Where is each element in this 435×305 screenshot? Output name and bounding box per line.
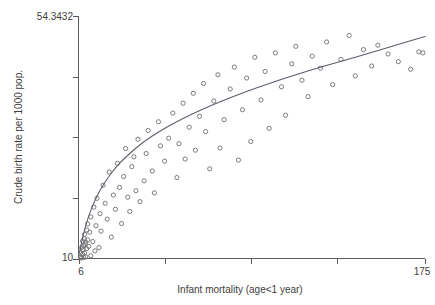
x-axis-title: Infant mortality (age<1 year) xyxy=(177,284,302,295)
x-axis-min-tick-label: 6 xyxy=(78,266,84,277)
x-axis-max-tick-label: 175 xyxy=(414,266,431,277)
y-axis-min-tick-label: 10 xyxy=(62,252,74,263)
y-axis-max-tick-label: 54.3432 xyxy=(37,11,74,22)
y-axis-title: Crude birth rate per 1000 pop. xyxy=(13,70,24,204)
scatter-plot: 54.3432 10 Crude birth rate per 1000 pop… xyxy=(0,0,435,305)
chart-page: 54.3432 10 Crude birth rate per 1000 pop… xyxy=(0,0,435,305)
